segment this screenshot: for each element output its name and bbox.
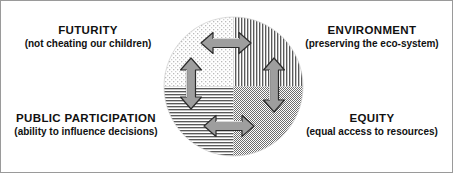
label-futurity: FUTURITY (not cheating our children) [7, 23, 169, 51]
label-public-participation-title: PUBLIC PARTICIPATION [3, 111, 169, 125]
quadrant-top-left [164, 17, 234, 87]
label-environment-subtitle: (preserving the eco-system) [293, 38, 451, 51]
label-environment: ENVIRONMENT (preserving the eco-system) [293, 23, 451, 51]
label-public-participation-subtitle: (ability to influence decisions) [3, 126, 169, 139]
label-equity-subtitle: (equal access to resources) [293, 126, 451, 139]
diagram-frame: FUTURITY (not cheating our children) ENV… [0, 0, 453, 173]
label-public-participation: PUBLIC PARTICIPATION (ability to influen… [3, 111, 169, 139]
label-equity-title: EQUITY [293, 111, 451, 125]
label-futurity-title: FUTURITY [7, 23, 169, 37]
label-equity: EQUITY (equal access to resources) [293, 111, 451, 139]
label-environment-title: ENVIRONMENT [293, 23, 451, 37]
label-futurity-subtitle: (not cheating our children) [7, 38, 169, 51]
